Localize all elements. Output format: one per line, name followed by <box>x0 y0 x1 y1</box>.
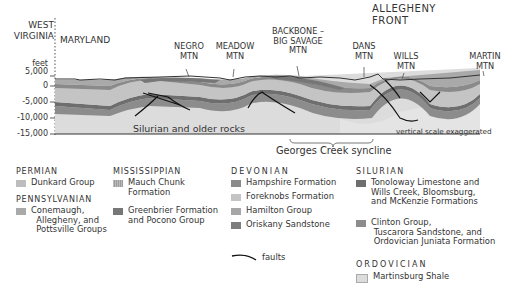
legend-item-martinsburg: Martinsburg Shale <box>356 272 449 283</box>
older-rocks-label: Silurian and older rocks <box>133 123 245 134</box>
hampshire-swatch <box>231 180 241 187</box>
legend-item-label: Foreknobs Formation <box>246 192 334 202</box>
legend-period-silurian: SILURIAN <box>356 167 405 176</box>
fault-legend-icon <box>232 255 256 260</box>
axis-tick-neg5000: -5,000 <box>2 97 48 106</box>
legend-period-pennsylvanian: PENNSYLVANIAN <box>16 195 92 204</box>
legend-item-label: Tonoloway Limestone and Wills Creek, Blo… <box>371 178 479 207</box>
legend-item-hamilton: Hamilton Group <box>231 206 312 216</box>
tonoloway-swatch <box>356 180 366 187</box>
negro-mtn-label: NEGRO MTN <box>166 42 212 61</box>
mauch-chunk-swatch <box>113 180 123 187</box>
conemaugh-swatch <box>16 208 26 215</box>
martinsburg-swatch <box>356 274 368 283</box>
legend-item-oriskany: Oriskany Sandstone <box>231 220 330 230</box>
axis-tick-0: 0 <box>2 81 48 90</box>
legend-item-label: Hampshire Formation <box>246 178 336 188</box>
legend-item-label: faults <box>262 253 285 263</box>
legend-item-hampshire: Hampshire Formation <box>231 178 336 188</box>
hamilton-swatch <box>231 208 241 215</box>
greenbrier-swatch <box>113 208 123 215</box>
legend-item-label: Mauch Chunk Formation <box>128 178 185 197</box>
allegheny-front-label: ALLEGHENY FRONT <box>372 3 436 27</box>
legend-item-dunkard: Dunkard Group <box>16 178 95 188</box>
legend-item-clinton: Clinton Group, Tuscarora Sandstone, and … <box>356 218 495 247</box>
legend-period-mississippian: MISSISSIPPIAN <box>113 167 181 176</box>
oriskany-swatch <box>231 222 241 229</box>
west-virginia-label: WEST VIRGINIA <box>10 20 54 41</box>
martin-mtn-label: MARTIN MTN <box>462 52 508 71</box>
axis-tick-neg10000: -10,000 <box>2 113 48 122</box>
axis-tick-5000: 5,000 <box>2 67 48 76</box>
legend-item-label: Dunkard Group <box>31 178 95 188</box>
wills-mtn-label: WILLS MTN <box>386 52 426 71</box>
legend-item-label: Conemaugh, Allegheny, and Pottsville Gro… <box>31 206 107 235</box>
legend-item-label: Clinton Group, Tuscarora Sandstone, and … <box>371 218 495 247</box>
maryland-label: MARYLAND <box>60 35 110 46</box>
vertical-scale-note: vertical scale exaggerated <box>396 127 492 136</box>
legend-item-foreknobs: Foreknobs Formation <box>231 192 334 202</box>
legend-item-tonoloway: Tonoloway Limestone and Wills Creek, Blo… <box>356 178 479 207</box>
legend-item-label: Martinsburg Shale <box>373 272 449 282</box>
clinton-swatch <box>356 220 366 227</box>
axis-ticks <box>50 76 55 134</box>
legend-item-conemaugh: Conemaugh, Allegheny, and Pottsville Gro… <box>16 206 107 235</box>
foreknobs-swatch <box>231 194 241 201</box>
legend-item-faults: faults <box>262 253 285 263</box>
legend-period-permian: PERMIAN <box>16 167 58 176</box>
dunkard-swatch <box>16 180 26 187</box>
legend-period-ordovician: ORDOVICIAN <box>356 260 427 269</box>
legend-item-label: Greenbrier Formation and Pocono Group <box>128 206 218 225</box>
legend-item-greenbrier: Greenbrier Formation and Pocono Group <box>113 206 218 225</box>
dans-mtn-label: DANS MTN <box>344 42 384 61</box>
legend-period-devonian: DEVONIAN <box>231 167 290 176</box>
meadow-mtn-label: MEADOW MTN <box>212 42 258 61</box>
legend-item-mauch-chunk: Mauch Chunk Formation <box>113 178 185 197</box>
axis-tick-neg15000: -15,000 <box>2 129 48 138</box>
legend-item-label: Hamilton Group <box>246 206 312 216</box>
georges-creek-syncline-label: Georges Creek syncline <box>276 145 392 156</box>
legend-item-label: Oriskany Sandstone <box>246 220 330 230</box>
backbone-big-savage-mtn-label: BACKBONE – BIG SAVAGE MTN <box>270 27 326 56</box>
